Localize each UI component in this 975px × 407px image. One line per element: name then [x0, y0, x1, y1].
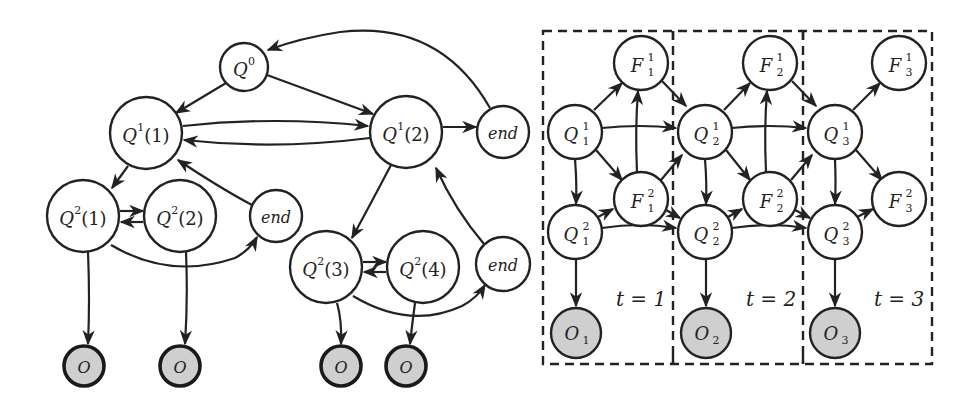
- svg-text:3: 3: [906, 202, 913, 215]
- edge-f22-q13: [791, 155, 812, 180]
- node-O-3: O 3: [810, 308, 860, 358]
- svg-text:F: F: [888, 191, 903, 212]
- hhmm-diagram: Q0 Q1(1) Q1(2) end Q2(1) Q2(2) end Q2(3: [47, 31, 530, 386]
- node-O-2: O 2: [681, 308, 731, 358]
- svg-text:2: 2: [713, 235, 720, 248]
- node-q0: Q0: [220, 43, 268, 91]
- node-q1-1: Q1(1): [110, 97, 182, 169]
- edge-q12-f12: [724, 83, 750, 110]
- node-Q1-1: Q 1 1: [548, 105, 602, 159]
- node-Q2-2: Q 2 2: [678, 205, 732, 259]
- svg-text:2: 2: [777, 202, 784, 215]
- svg-text:Q2(4): Q2(4): [399, 255, 446, 280]
- edge-q12-f22: [726, 150, 750, 180]
- node-q2-2: Q2(2): [144, 180, 216, 252]
- time-label-3: t = 3: [874, 287, 924, 311]
- node-F2-1: F 2 1: [614, 172, 668, 226]
- node-F1-1: F 1 1: [614, 36, 668, 90]
- edge-f21-f11: [636, 91, 638, 172]
- edge-f21-q12: [661, 155, 682, 180]
- edge-f22-f12: [765, 91, 767, 172]
- svg-text:Q2(1): Q2(1): [59, 204, 106, 229]
- svg-text:2: 2: [777, 187, 784, 200]
- svg-text:1: 1: [583, 135, 590, 148]
- time-label-1: t = 1: [616, 287, 666, 311]
- node-o2: O: [160, 346, 200, 386]
- svg-text:1: 1: [583, 120, 590, 133]
- edge-q13-f13: [853, 83, 880, 110]
- svg-text:1: 1: [777, 51, 784, 64]
- svg-text:Q1(2): Q1(2): [382, 120, 429, 145]
- svg-text:1: 1: [713, 120, 720, 133]
- node-F1-3: F 1 3: [872, 36, 926, 90]
- edge-q11-f11: [594, 83, 622, 110]
- node-end-left: end: [250, 190, 302, 242]
- edge-q23-f23: [857, 209, 873, 217]
- node-o3: O: [321, 346, 361, 386]
- svg-text:F: F: [888, 55, 903, 76]
- svg-text:3: 3: [906, 66, 913, 79]
- svg-text:end: end: [261, 208, 291, 227]
- svg-text:3: 3: [843, 135, 850, 148]
- svg-text:1: 1: [648, 66, 655, 79]
- svg-text:Q1(1): Q1(1): [122, 121, 169, 146]
- edge-q2-3-o3: [337, 303, 341, 344]
- edge-q11-q12: [602, 126, 676, 128]
- svg-text:O: O: [824, 323, 839, 344]
- svg-text:1: 1: [648, 202, 655, 215]
- svg-text:O: O: [173, 358, 186, 377]
- dbn-diagram: F 1 1 Q 1 1 F 2 1 Q 2 1 O 1 t = 1: [543, 31, 932, 364]
- svg-text:2: 2: [713, 135, 720, 148]
- edge-q0-q1-2: [267, 75, 373, 114]
- svg-text:Q: Q: [564, 124, 579, 145]
- svg-text:F: F: [630, 191, 645, 212]
- svg-text:O: O: [565, 323, 580, 344]
- svg-text:end: end: [488, 256, 518, 275]
- edge-q2-1-o1: [88, 252, 89, 344]
- diagram-canvas: Q0 Q1(1) Q1(2) end Q2(1) Q2(2) end Q2(3: [0, 0, 975, 407]
- node-Q2-1: Q 2 1: [548, 205, 602, 259]
- edge-q11-f21: [596, 150, 622, 180]
- svg-text:2: 2: [843, 220, 850, 233]
- svg-text:2: 2: [777, 66, 784, 79]
- node-q1-2: Q1(2): [370, 96, 442, 168]
- edge-q1-2-q1-1: [184, 138, 370, 145]
- svg-text:2: 2: [583, 220, 590, 233]
- svg-text:O: O: [77, 358, 90, 377]
- svg-text:Q: Q: [824, 224, 839, 245]
- edge-q21-f21: [598, 209, 613, 217]
- svg-text:1: 1: [843, 120, 850, 133]
- node-q2-3: Q2(3): [290, 231, 362, 303]
- svg-text:F: F: [630, 55, 645, 76]
- svg-text:Q: Q: [694, 224, 709, 245]
- svg-text:2: 2: [648, 187, 655, 200]
- svg-text:1: 1: [583, 235, 590, 248]
- edge-q11-q21: [575, 159, 576, 204]
- svg-text:Q2(2): Q2(2): [156, 204, 203, 229]
- node-F2-3: F 2 3: [872, 172, 926, 226]
- node-end-top: end: [477, 106, 529, 158]
- edge-end-right-q1-2: [436, 168, 484, 244]
- svg-text:F: F: [759, 55, 774, 76]
- edge-q1-2-q2-3: [352, 165, 391, 238]
- svg-text:3: 3: [842, 334, 849, 347]
- node-Q2-3: Q 2 3: [808, 205, 862, 259]
- node-q2-1: Q2(1): [47, 180, 119, 252]
- node-o1: O: [64, 346, 104, 386]
- node-F1-2: F 1 2: [743, 36, 797, 90]
- svg-text:O: O: [334, 358, 347, 377]
- node-end-right: end: [476, 237, 530, 291]
- edge-q1-1-q1-2: [183, 121, 368, 126]
- svg-text:O: O: [695, 323, 710, 344]
- edge-q12-q13: [732, 126, 806, 128]
- svg-text:Q: Q: [694, 124, 709, 145]
- node-F2-2: F 2 2: [743, 172, 797, 226]
- svg-text:2: 2: [906, 187, 913, 200]
- node-Q1-3: Q 1 3: [808, 105, 862, 159]
- edge-q13-q23: [835, 159, 836, 204]
- svg-text:end: end: [488, 124, 518, 143]
- svg-text:Q: Q: [564, 224, 579, 245]
- node-o4: O: [386, 346, 426, 386]
- edge-q0-q1-1: [176, 83, 226, 113]
- edge-q13-f23: [856, 150, 882, 180]
